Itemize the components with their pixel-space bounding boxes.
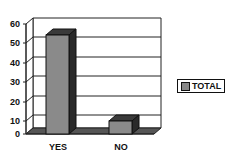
- legend-swatch-icon: [181, 82, 190, 91]
- y-tick-50: 50: [10, 38, 20, 48]
- plot-area: [23, 18, 161, 134]
- legend-label: TOTAL: [192, 81, 221, 91]
- y-tick-0: 0: [15, 129, 20, 139]
- y-tick-40: 40: [10, 58, 20, 68]
- y-tick-60: 60: [10, 19, 20, 29]
- y-axis-labels: 0 10 20 30 40 50 60: [10, 19, 20, 139]
- y-tick-30: 30: [10, 77, 20, 87]
- x-label-yes: YES: [49, 142, 67, 152]
- y-tick-20: 20: [10, 97, 20, 107]
- x-label-no: NO: [114, 142, 128, 152]
- legend: TOTAL: [177, 79, 225, 93]
- y-tick-10: 10: [10, 116, 20, 126]
- bar-no: [109, 115, 139, 134]
- bar-yes: [46, 29, 76, 134]
